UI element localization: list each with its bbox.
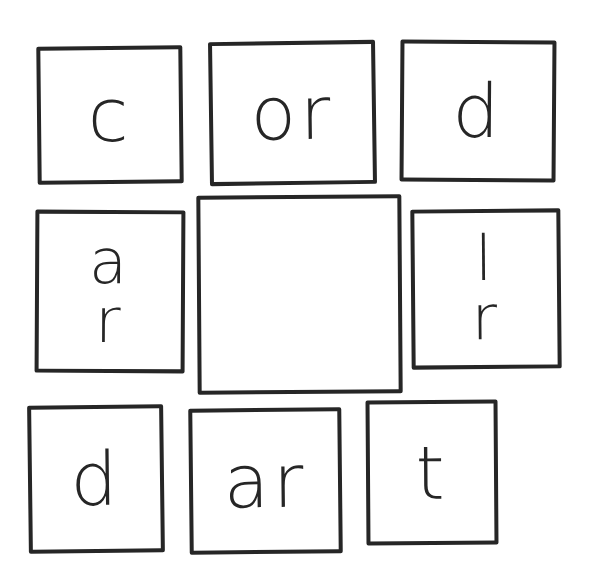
tile-stacked-text: l r xyxy=(471,230,502,348)
tile-bottom-center: ar xyxy=(188,407,343,555)
tile-text: d xyxy=(452,74,503,148)
tile-text: d xyxy=(70,442,122,517)
tile-middle-right: l r xyxy=(410,208,561,369)
tile-letter: r xyxy=(471,289,501,348)
tile-top-left: c xyxy=(36,45,183,185)
tile-center-empty xyxy=(196,194,402,394)
tile-top-center: or xyxy=(208,40,377,186)
tile-letter: r xyxy=(89,291,131,350)
tile-middle-left: a r xyxy=(35,210,186,374)
tile-text: or xyxy=(250,75,335,150)
tile-text: t xyxy=(415,435,449,509)
tile-bottom-left: d xyxy=(27,404,165,554)
tile-top-right: d xyxy=(400,39,557,182)
tile-stacked-text: a r xyxy=(89,233,132,351)
tile-letter: a xyxy=(89,233,131,292)
tile-bottom-right: t xyxy=(365,400,498,546)
tile-text: c xyxy=(87,78,132,152)
tile-text: ar xyxy=(223,444,308,519)
